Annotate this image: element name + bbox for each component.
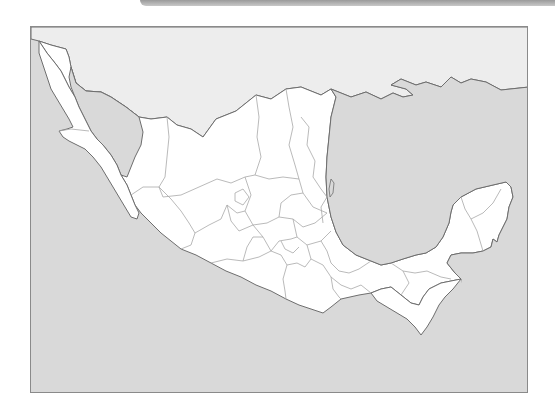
mexico-outline-map [31, 27, 528, 393]
page-top-bar [140, 0, 555, 6]
map-frame [30, 26, 528, 393]
